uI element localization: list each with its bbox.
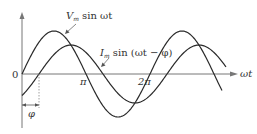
voltage-label: Vm sin ωt [66, 10, 112, 22]
tick-label-pi: π [79, 76, 87, 87]
x-axis-arrow-icon [230, 72, 238, 77]
x-axis-label: ωt [240, 68, 253, 79]
phase-arrow-right-icon [35, 103, 39, 106]
current-label: Im sin (ωt − φ) [99, 47, 173, 59]
origin-label: 0 [12, 69, 18, 80]
y-axis-arrow-icon [20, 12, 25, 19]
phase-label: φ [28, 108, 35, 119]
tick-label-2pi: 2π [137, 76, 151, 87]
phase-arrow-left-icon [22, 103, 26, 106]
waveform-diagram: 0 π 2π ωt φ Vm sin ωt Im sin (ωt − φ) [0, 0, 257, 134]
